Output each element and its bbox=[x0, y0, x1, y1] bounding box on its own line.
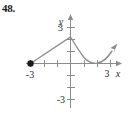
figure-panel: 48. bbox=[0, 0, 132, 121]
function-curve bbox=[31, 37, 113, 64]
x-axis-label: x bbox=[115, 68, 121, 79]
x-tick-label-negative-3: -3 bbox=[26, 69, 34, 80]
x-axis-arrowhead bbox=[116, 61, 122, 66]
x-tick-label-positive-3: 3 bbox=[105, 68, 110, 79]
y-axis-arrowhead bbox=[68, 14, 73, 20]
graph-figure: y x 3 -3 -3 3 bbox=[0, 0, 132, 121]
y-tick-label-negative-3: -3 bbox=[57, 94, 65, 105]
y-tick-label-positive-3: 3 bbox=[58, 22, 63, 33]
closed-endpoint-dot bbox=[27, 60, 33, 66]
